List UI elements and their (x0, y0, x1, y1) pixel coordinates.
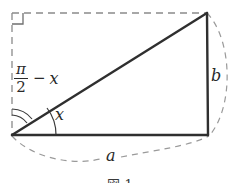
label-side-a: a (106, 148, 116, 164)
angle-arc-complement-inner (12, 115, 27, 123)
dashed-arc-a-left (12, 136, 104, 161)
label-complement-angle: π 2 − x (14, 62, 59, 95)
label-angle-x: x (55, 107, 64, 123)
fraction-pi-over-two: π 2 (14, 62, 28, 95)
figure-caption: 図 1 (0, 174, 240, 183)
fraction-denominator: 2 (14, 79, 28, 95)
figure-container: π 2 − x x a b 図 1 (0, 0, 240, 183)
dashed-arc-a-right (121, 136, 209, 157)
vertical-side-line (207, 13, 208, 135)
minus-operator: − (28, 71, 50, 86)
fraction-numerator: π (14, 62, 28, 78)
complement-variable: x (50, 71, 59, 87)
label-side-b: b (211, 68, 221, 84)
right-angle-marker-icon (12, 13, 23, 24)
